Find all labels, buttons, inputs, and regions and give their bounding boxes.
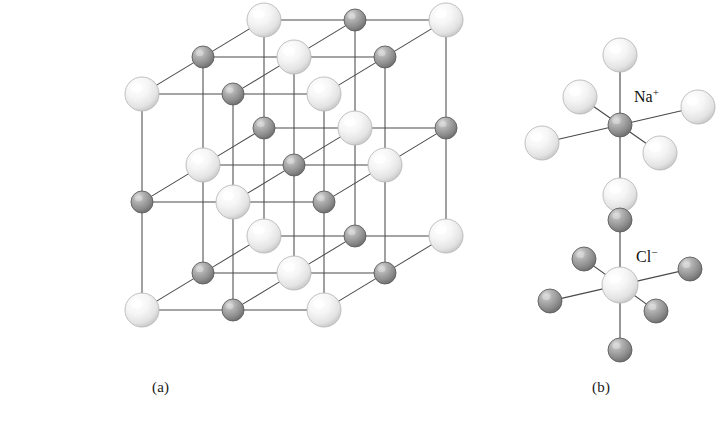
- lattice-ions-panel-a: [125, 3, 463, 327]
- chloride-ion-sphere-highlight: [253, 10, 265, 19]
- chloride-octahedron-neighbor-ion-highlight: [612, 343, 620, 349]
- chloride-ion-sphere: [186, 148, 220, 182]
- lattice-bond: [331, 171, 375, 198]
- sodium-charge: +: [653, 86, 659, 98]
- lattice-bond: [395, 132, 439, 159]
- sodium-octahedron-neighbor-ion-highlight: [609, 185, 621, 194]
- chloride-octahedron-neighbor-ion-highlight: [682, 262, 690, 268]
- chloride-ion-sphere-highlight: [435, 226, 447, 235]
- sodium-octahedron-neighbor-ion-highlight: [687, 97, 699, 106]
- chloride-octahedron-neighbor-ion-highlight: [612, 213, 620, 219]
- lattice-bond: [243, 169, 287, 196]
- sodium-ion-sphere: [344, 225, 366, 247]
- sodium-ion-sphere-highlight: [196, 266, 203, 272]
- chloride-charge: −: [651, 246, 657, 258]
- lattice-bond: [304, 240, 348, 267]
- sodium-ion-sphere-highlight: [348, 13, 355, 19]
- sodium-ion-sphere-highlight: [257, 121, 264, 127]
- sodium-ion-sphere: [344, 9, 366, 31]
- sodium-octahedron-neighbor-ion-highlight: [649, 143, 661, 152]
- caption-panel-b: (b): [592, 379, 610, 396]
- sodium-octahedron-neighbor-ion: [603, 38, 637, 72]
- sodium-ion-sphere: [131, 191, 153, 213]
- sodium-ion-sphere-highlight: [226, 87, 233, 93]
- chloride-ion-sphere: [307, 77, 341, 111]
- chloride-ion-sphere-highlight: [253, 226, 265, 235]
- chloride-ion-sphere-highlight: [283, 47, 295, 56]
- chloride-symbol: Cl: [636, 248, 651, 265]
- sodium-octahedron-neighbor-ion-highlight: [569, 87, 581, 96]
- lattice-bond: [301, 134, 345, 161]
- sodium-octahedron-bond: [624, 110, 685, 124]
- chloride-ion-sphere-highlight: [131, 300, 143, 309]
- chloride-ion-sphere-highlight: [283, 263, 295, 272]
- chloride-ion-sphere-highlight: [313, 300, 325, 309]
- caption-panel-a: (a): [152, 379, 169, 396]
- sodium-symbol: Na: [634, 88, 653, 105]
- sodium-ion-label: Na+: [634, 88, 659, 106]
- sodium-ion-sphere-highlight: [378, 266, 385, 272]
- chloride-ion-sphere-highlight: [435, 10, 447, 19]
- chloride-ion-sphere: [247, 219, 281, 253]
- lattice-bond: [240, 63, 284, 90]
- chloride-octahedron-neighbor-ion: [678, 257, 702, 281]
- chloride-octahedron-center-ion: [602, 267, 638, 303]
- lattice-bond: [210, 26, 254, 53]
- sodium-octahedron-center-ion: [608, 113, 632, 137]
- sodium-ion-sphere-highlight: [287, 158, 294, 164]
- sodium-ion-sphere: [283, 154, 305, 176]
- sodium-octahedron-bond: [555, 126, 616, 140]
- lattice-bond: [392, 26, 436, 53]
- sodium-octahedron-neighbor-ion: [563, 80, 597, 114]
- chloride-ion-sphere: [429, 219, 463, 253]
- chloride-ion-sphere: [368, 148, 402, 182]
- nacl-structure-figure: Na+ Cl− (a) (b): [0, 0, 723, 427]
- sodium-ion-sphere: [374, 262, 396, 284]
- lattice-bond: [334, 61, 378, 88]
- lattice-bond: [392, 242, 436, 269]
- chloride-ion-sphere-highlight: [374, 155, 386, 164]
- chloride-ion-sphere: [247, 3, 281, 37]
- sodium-ion-sphere: [222, 299, 244, 321]
- chloride-ion-sphere: [216, 185, 250, 219]
- sodium-octahedron-center-ion-highlight: [612, 118, 620, 124]
- sodium-octahedron-neighbor-ion-highlight: [531, 133, 543, 142]
- chloride-octahedron-center-ion-highlight: [608, 274, 620, 283]
- sodium-octahedron-neighbor-ion-highlight: [609, 45, 621, 54]
- chloride-ion-sphere-highlight: [222, 192, 234, 201]
- sodium-ion-sphere-highlight: [317, 195, 324, 201]
- chloride-ion-sphere: [277, 256, 311, 290]
- lattice-bond: [149, 171, 193, 198]
- sodium-octahedron-neighbor-ion: [603, 178, 637, 212]
- lattice-bond: [304, 24, 348, 51]
- chloride-ion-sphere-highlight: [192, 155, 204, 164]
- chloride-octahedron-neighbor-ion: [538, 289, 562, 313]
- sodium-ion-sphere: [222, 83, 244, 105]
- lattice-bond: [152, 277, 196, 304]
- chloride-ion-sphere: [125, 293, 159, 327]
- chloride-ion-sphere: [429, 3, 463, 37]
- chloride-ion-sphere: [277, 40, 311, 74]
- chloride-octahedron-neighbor-ion: [608, 338, 632, 362]
- sodium-octahedron-neighbor-ion: [643, 136, 677, 170]
- chloride-ion-sphere: [307, 293, 341, 327]
- chloride-octahedron-neighbor-ion-highlight: [576, 252, 584, 258]
- sodium-ion-sphere: [192, 262, 214, 284]
- sodium-ion-sphere: [313, 191, 335, 213]
- sodium-octahedron-neighbor-ion: [681, 90, 715, 124]
- sodium-ion-sphere: [435, 117, 457, 139]
- sodium-ion-sphere: [374, 46, 396, 68]
- lattice-bond: [240, 279, 284, 306]
- sodium-ion-sphere: [253, 117, 275, 139]
- chloride-octahedron-neighbor-ion: [644, 299, 668, 323]
- sodium-octahedron-neighbor-ion: [525, 126, 559, 160]
- sodium-ion-sphere-highlight: [196, 50, 203, 56]
- chloride-ion-sphere: [338, 111, 372, 145]
- lattice-bond: [213, 132, 257, 159]
- sodium-ion-sphere-highlight: [135, 195, 142, 201]
- chloride-octahedron-neighbor-ion-highlight: [648, 304, 656, 310]
- chloride-ion-label: Cl−: [636, 248, 657, 266]
- chloride-ion-sphere-highlight: [131, 84, 143, 93]
- sodium-ion-sphere-highlight: [226, 303, 233, 309]
- chloride-ion-sphere-highlight: [344, 118, 356, 127]
